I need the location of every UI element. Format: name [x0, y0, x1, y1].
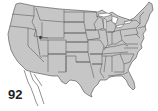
great-salt-lake: [39, 36, 42, 40]
us-landmass: [8, 2, 153, 97]
map-number-label: 92: [8, 87, 22, 102]
us-map: [0, 0, 158, 111]
baja-california-outline: [24, 70, 44, 106]
